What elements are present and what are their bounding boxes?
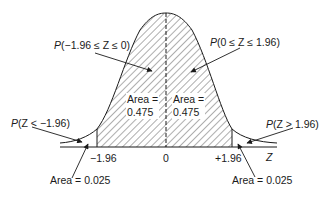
tick-label-zero: 0 [163, 152, 169, 164]
tick-label-neg-1-96: −1.96 [90, 152, 117, 164]
area-value: 0.475 [127, 106, 158, 119]
arrow-left-tail-area [72, 144, 88, 178]
area-label: Area = [173, 93, 204, 106]
area-left-center: Area = 0.475 [126, 93, 159, 119]
area-right-tail: Area = 0.025 [232, 174, 292, 186]
arrow-left-tail [32, 127, 82, 142]
prob-expression: (−1.96 ≤ Z ≤ 0) [61, 39, 130, 51]
prob-symbol: P [210, 36, 217, 48]
axis-label-z: Z [266, 151, 272, 163]
label-prob-left-center: P(−1.96 ≤ Z ≤ 0) [54, 39, 130, 51]
tick-label-pos-1-96: +1.96 [215, 152, 242, 164]
area-right-center: Area = 0.475 [172, 93, 205, 119]
prob-symbol: P [54, 39, 61, 51]
normal-distribution-diagram [0, 0, 321, 197]
axis-label-text: Z [266, 151, 272, 163]
arrow-right-tail [247, 128, 293, 143]
area-left-tail: Area = 0.025 [50, 174, 110, 186]
label-prob-right-center: P(0 ≤ Z ≤ 1.96) [210, 36, 280, 48]
prob-symbol: P [11, 117, 18, 129]
prob-expression: (Z > 1.96) [273, 118, 319, 130]
area-label: Area = [127, 93, 158, 106]
label-prob-right-tail: P(Z > 1.96) [266, 118, 319, 130]
prob-expression: (Z < −1.96) [18, 117, 70, 129]
label-prob-left-tail: P(Z < −1.96) [11, 117, 70, 129]
prob-symbol: P [266, 118, 273, 130]
area-value: 0.475 [173, 106, 204, 119]
prob-expression: (0 ≤ Z ≤ 1.96) [217, 36, 280, 48]
